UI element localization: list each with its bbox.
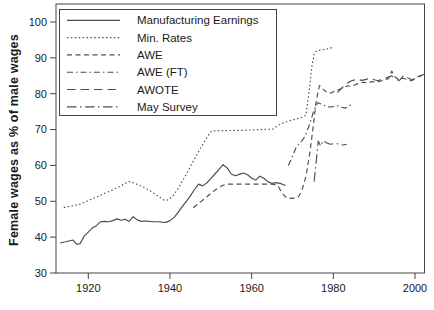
y-axis-ticks: 10090807060504030 (29, 16, 56, 279)
y-axis-title: Female wages as % of male wages (7, 34, 21, 246)
x-axis-ticks: 19201940196019802000 (76, 273, 427, 294)
x-tick-label: 1940 (158, 282, 182, 294)
legend-label-awe: AWE (137, 49, 163, 61)
series-line-awe-ft (288, 103, 351, 166)
chart-canvas: 1009080706050403019201940196019802000Man… (0, 0, 434, 310)
series-line-awote (337, 74, 424, 93)
y-tick-label: 50 (35, 195, 47, 207)
legend-label-awe-ft: AWE (FT) (137, 66, 188, 78)
legend-label-manufacturing-earnings: Manufacturing Earnings (137, 14, 259, 26)
y-tick-label: 60 (35, 159, 47, 171)
series-line-manufacturing-earnings (61, 165, 286, 245)
x-tick-label: 2000 (403, 282, 427, 294)
y-tick-label: 40 (35, 231, 47, 243)
legend-label-min-rates: Min. Rates (137, 32, 192, 44)
legend-label-may-survey: May Survey (137, 101, 198, 113)
y-tick-label: 90 (35, 52, 47, 64)
y-tick-label: 100 (29, 16, 47, 28)
x-tick-label: 1920 (76, 282, 100, 294)
y-tick-label: 80 (35, 88, 47, 100)
y-tick-label: 70 (35, 123, 47, 135)
series-line-may-survey (314, 141, 347, 182)
y-tick-label: 30 (35, 267, 47, 279)
x-tick-label: 1980 (321, 282, 345, 294)
legend-label-awote: AWOTE (137, 84, 179, 96)
legend: Manufacturing EarningsMin. RatesAWEAWE (… (60, 10, 277, 116)
chart-figure: 1009080706050403019201940196019802000Man… (0, 0, 434, 310)
x-tick-label: 1960 (239, 282, 263, 294)
